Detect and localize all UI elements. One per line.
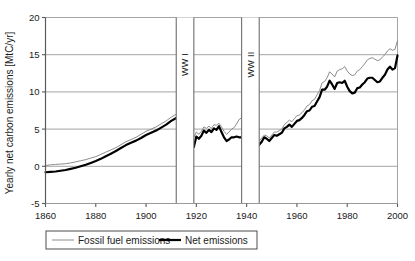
war-period-label-ww1: WW I	[180, 53, 190, 76]
y-tick-label: 5	[34, 124, 39, 135]
war-band-fill	[242, 18, 260, 204]
emissions-line-chart: -505101520 18601880190019201940196019802…	[0, 0, 415, 261]
x-tick-label: 1960	[286, 210, 307, 221]
x-tick-label: 1860	[35, 210, 56, 221]
chart-legend: Fossil fuel emissionsNet emissions	[46, 231, 257, 249]
y-tick-label: 15	[29, 49, 40, 60]
x-tick-label: 1980	[337, 210, 358, 221]
x-tick-label: 1880	[85, 210, 106, 221]
x-tick-label: 1940	[236, 210, 257, 221]
figure-container: -505101520 18601880190019201940196019802…	[0, 0, 415, 261]
war-band-fill	[176, 18, 194, 204]
legend-label-fossil-fuel: Fossil fuel emissions	[78, 235, 170, 246]
y-axis-title-text: Yearly net carbon emissions [MtC/yr]	[4, 32, 15, 195]
y-tick-label: 0	[34, 161, 39, 172]
x-tick-label: 2000	[387, 210, 408, 221]
y-tick-label: 10	[29, 86, 40, 97]
x-tick-label: 1900	[136, 210, 157, 221]
war-period-label-ww2: WW II	[246, 52, 256, 78]
x-tick-label: 1920	[186, 210, 207, 221]
y-axis-title: Yearly net carbon emissions [MtC/yr]	[4, 32, 15, 195]
legend-label-net: Net emissions	[185, 235, 248, 246]
y-tick-label: 20	[29, 12, 40, 23]
y-tick-label: -5	[31, 198, 39, 209]
